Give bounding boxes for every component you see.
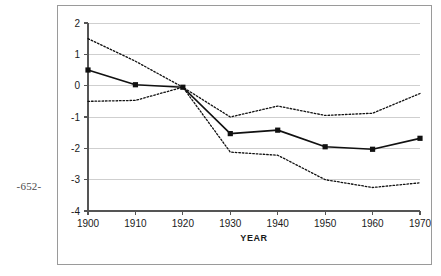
data-point-marker [133, 82, 138, 87]
y-axis-ticks: 210-1-2-3-4 [71, 18, 88, 217]
y-tick-label: -2 [71, 143, 80, 154]
data-point-marker [85, 67, 90, 72]
x-axis-ticks: 19001910192019301940195019601970 [77, 211, 431, 229]
page-number: -652- [6, 180, 52, 192]
x-axis-title: YEAR [240, 233, 267, 243]
y-tick-label: -4 [71, 206, 80, 217]
y-tick-label: -3 [71, 174, 80, 185]
data-point-marker [323, 144, 328, 149]
x-tick-label: 1900 [77, 218, 100, 229]
y-tick-label: -1 [71, 112, 80, 123]
x-tick-label: 1940 [267, 218, 290, 229]
y-tick-label: 0 [74, 80, 80, 91]
data-point-marker [370, 147, 375, 152]
x-tick-label: 1920 [172, 218, 195, 229]
gridlines [88, 23, 420, 211]
figure-frame: 210-1-2-3-4 1900191019201930194019501960… [57, 5, 432, 265]
series-line-central-estimate [88, 70, 420, 149]
y-tick-label: 1 [74, 49, 80, 60]
line-chart: 210-1-2-3-4 1900191019201930194019501960… [58, 6, 431, 264]
x-tick-label: 1930 [219, 218, 242, 229]
x-tick-label: 1950 [314, 218, 337, 229]
series-line-lower-bound [88, 87, 420, 187]
x-tick-label: 1910 [124, 218, 147, 229]
data-point-marker [228, 131, 233, 136]
x-tick-label: 1970 [409, 218, 431, 229]
series-line-upper-bound [88, 39, 420, 117]
y-tick-label: 2 [74, 18, 80, 29]
x-tick-label: 1960 [361, 218, 384, 229]
data-point-marker [417, 136, 422, 141]
data-series-group [85, 39, 422, 188]
data-point-marker [275, 128, 280, 133]
